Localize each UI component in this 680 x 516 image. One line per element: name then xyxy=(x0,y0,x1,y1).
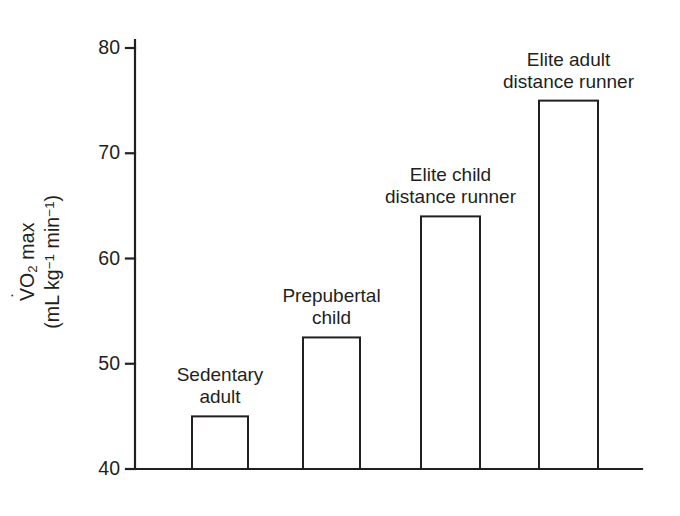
bar-caption-2-line-1: distance runner xyxy=(321,186,581,208)
bar-caption-0: Sedentaryadult xyxy=(90,364,350,408)
bar-caption-3-line-1: distance runner xyxy=(439,71,680,93)
bar-caption-0-line-1: adult xyxy=(90,386,350,408)
bar-caption-3-line-0: Elite adult xyxy=(439,49,680,71)
bar-caption-1: Prepubertalchild xyxy=(202,285,462,329)
bar-3 xyxy=(539,101,598,469)
bar-caption-1-line-1: child xyxy=(202,307,462,329)
bar-0 xyxy=(192,416,248,469)
vo2max-bar-chart-figure: ˙VO2 max (mL kg−1 min−1) 4050607080 Sede… xyxy=(0,0,680,516)
bar-caption-3: Elite adultdistance runner xyxy=(439,49,680,93)
bar-caption-1-line-0: Prepubertal xyxy=(202,285,462,307)
bar-2 xyxy=(421,216,480,469)
bar-caption-2-line-0: Elite child xyxy=(321,164,581,186)
bar-caption-0-line-0: Sedentary xyxy=(90,364,350,386)
bar-caption-2: Elite childdistance runner xyxy=(321,164,581,208)
